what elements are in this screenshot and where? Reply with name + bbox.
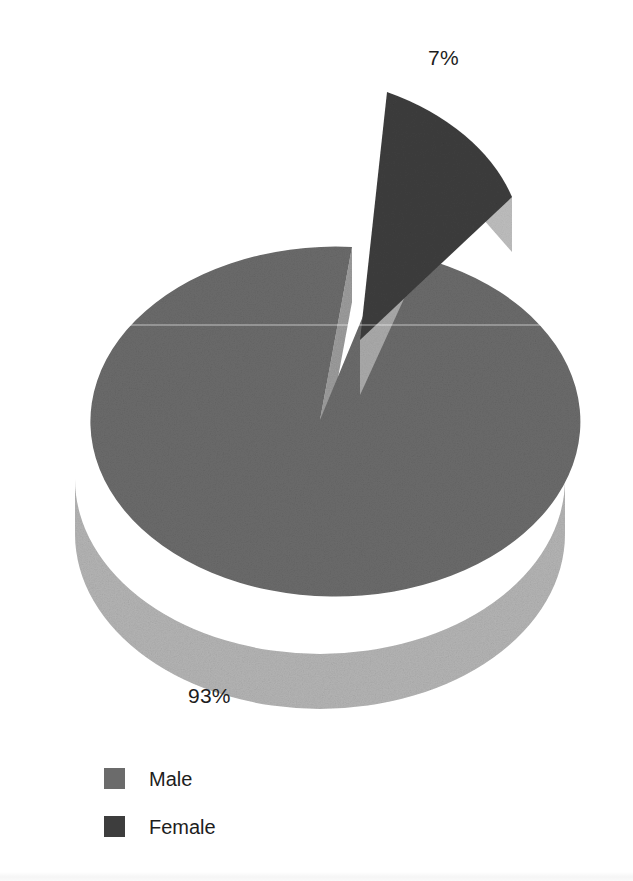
pie-chart-graphic bbox=[0, 0, 633, 881]
legend-label-female: Female bbox=[149, 817, 216, 837]
pie-slice-male-top bbox=[90, 247, 580, 597]
legend-item-male[interactable]: Male bbox=[104, 768, 216, 789]
legend-swatch-female-icon bbox=[104, 816, 125, 837]
legend-swatch-male-icon bbox=[104, 768, 125, 789]
data-label-male-percent: 93% bbox=[188, 684, 231, 708]
pie-slice-male bbox=[75, 247, 580, 709]
pie-chart-canvas: 7% 93% Male Female bbox=[0, 0, 633, 881]
chart-legend: Male Female bbox=[104, 768, 216, 837]
data-label-female-percent: 7% bbox=[428, 46, 459, 70]
legend-label-male: Male bbox=[149, 769, 192, 789]
legend-item-female[interactable]: Female bbox=[104, 816, 216, 837]
